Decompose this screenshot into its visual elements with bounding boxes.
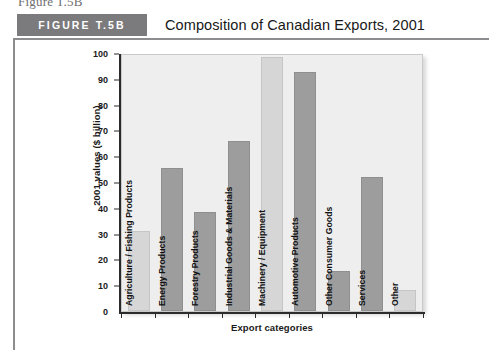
x-axis-tick-mark [121,313,122,318]
y-axis-tick-mark [114,208,119,209]
x-axis-tick-mark [289,313,290,318]
y-axis-tick-label: 0 [103,307,108,317]
bar-slot: Energy Products [155,55,188,311]
y-axis-tick-mark [114,286,119,287]
figure-header: FIGURE T.5B Composition of Canadian Expo… [13,14,489,39]
bar-category-label: Energy Products [157,236,167,306]
y-axis-tick-mark [114,54,119,55]
y-axis-tick-label: 80 [98,101,108,111]
header-divider [13,38,489,40]
x-axis-tick-mark [322,313,323,318]
bar-slot: Other Consumer Goods [322,55,355,311]
bar-slot: Forestry Products [189,55,222,311]
y-axis-tick-label: 50 [98,178,108,188]
y-axis-tick-label: 20 [98,255,108,265]
bar-slot: Services [355,55,388,311]
bar-category-label: Other Consumer Goods [324,207,334,306]
bar-category-label: Forestry Products [190,230,200,306]
bar-slot: Agriculture / Fishing Products [122,55,155,311]
y-axis-tick-label: 30 [98,230,108,240]
x-axis-label: Export categories [119,322,425,333]
y-axis-tick-mark [114,79,119,80]
y-axis-tick-mark [114,234,119,235]
bar-group: Agriculture / Fishing ProductsEnergy Pro… [122,55,422,311]
y-axis-tick-label: 10 [98,281,108,291]
bar-slot: Machinery / Equipment [255,55,288,311]
y-axis-tick-label: 40 [98,204,108,214]
y-axis-tick-label: 100 [93,49,108,59]
left-margin-rule [13,40,15,350]
x-axis-tick-mark [389,313,390,318]
bar-category-label: Automotive Products [290,217,300,306]
bar-category-label: Services [357,270,367,306]
bar-slot: Industrial Goods & Materials [222,55,255,311]
bar-slot: Automotive Products [289,55,322,311]
y-axis-tick-mark [114,260,119,261]
y-axis-tick-label: 60 [98,152,108,162]
y-axis-tick-label: 70 [98,126,108,136]
bar-chart: 2001 values ($ billion) 1009080706050403… [88,54,428,329]
bar-category-label: Machinery / Equipment [257,210,267,306]
y-axis-tick-mark [114,157,119,158]
x-axis-tick-mark [222,313,223,318]
bar-slot: Other [389,55,422,311]
y-axis-ticks: 1009080706050403020100 [88,54,114,312]
x-axis-tick-mark [423,313,424,318]
x-axis-tick-mark [255,313,256,318]
figure-title: Composition of Canadian Exports, 2001 [165,14,425,36]
figure-tag: FIGURE T.5B [17,14,147,36]
y-axis-tick-label: 90 [98,75,108,85]
bar-category-label: Other [390,283,400,306]
x-axis-line [119,312,425,314]
y-axis-tick-mark [114,105,119,106]
bar-category-label: Industrial Goods & Materials [224,187,234,306]
page-bleed-text: Figure T.5B [18,0,83,10]
y-axis-tick-mark [114,183,119,184]
plot-area: Agriculture / Fishing ProductsEnergy Pro… [121,54,423,312]
x-axis-tick-mark [356,313,357,318]
x-axis-tick-mark [155,313,156,318]
y-axis-tick-mark [114,131,119,132]
bar-category-label: Agriculture / Fishing Products [124,180,134,306]
x-axis-tick-mark [188,313,189,318]
